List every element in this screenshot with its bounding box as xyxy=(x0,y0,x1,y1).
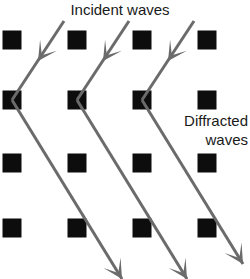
incident-ray-arrowhead-icon xyxy=(168,40,187,61)
lattice-atom xyxy=(198,154,217,173)
lattice-atom xyxy=(133,219,152,238)
diffracted-waves-label-line1: Diffracted xyxy=(184,112,248,129)
bragg-diffraction-diagram: Incident waves Diffracted waves xyxy=(0,0,250,279)
lattice-atom xyxy=(133,31,152,50)
lattice-atom xyxy=(68,31,87,50)
diffracted-ray-arrowhead-icon xyxy=(225,243,243,264)
diffracted-waves-label-line2: waves xyxy=(204,131,248,148)
lattice-atom xyxy=(3,219,22,238)
incident-wave-rays xyxy=(12,21,194,100)
diffracted-ray-line xyxy=(77,100,187,279)
lattice-atom xyxy=(198,91,217,110)
lattice-atom xyxy=(68,219,87,238)
incident-ray-arrowhead-icon xyxy=(103,40,122,61)
diffracted-ray-line xyxy=(12,100,122,279)
diagram-canvas: Incident waves Diffracted waves xyxy=(0,0,250,279)
lattice-atom xyxy=(3,154,22,173)
incident-waves-label: Incident waves xyxy=(70,1,169,18)
lattice-atom xyxy=(198,31,217,50)
diffracted-ray-arrowhead-icon xyxy=(169,258,187,279)
lattice-atom xyxy=(198,219,217,238)
lattice-atom xyxy=(3,31,22,50)
diffracted-ray-arrowhead-icon xyxy=(104,258,122,279)
lattice-atom xyxy=(68,154,87,173)
lattice-atom xyxy=(133,154,152,173)
incident-ray-arrowhead-icon xyxy=(38,40,57,61)
